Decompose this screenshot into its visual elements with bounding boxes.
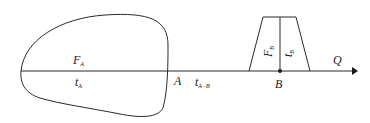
- region-b-left-label: FB: [261, 46, 275, 58]
- point-b-label: B: [275, 77, 283, 91]
- flow-diagram: FA tA A tA−B FB tB B Q: [0, 0, 370, 123]
- region-b-right-label: tB: [281, 50, 295, 57]
- q-axis-arrowhead-icon: [352, 67, 358, 75]
- region-a-top-label: FA: [72, 53, 84, 67]
- region-a-outline: [21, 14, 168, 116]
- point-b-dot: [278, 69, 282, 73]
- region-a-bottom-label: tA: [75, 75, 82, 89]
- segment-ab-label: tA−B: [195, 75, 210, 89]
- q-axis-label: Q: [333, 53, 342, 67]
- point-a-label: A: [173, 74, 182, 88]
